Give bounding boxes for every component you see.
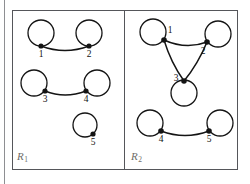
figure-container: 1 2 3 4 5 <box>0 0 250 184</box>
panel-label-r2: R2 <box>131 150 141 162</box>
vertex-dot <box>90 131 95 136</box>
node-label-r2-4: 4 <box>159 134 164 144</box>
node-label-r1-1: 1 <box>39 49 44 59</box>
node-label-r1-4: 4 <box>84 94 89 104</box>
node-label-r2-2: 2 <box>201 46 206 56</box>
node-label-r2-1: 1 <box>168 25 173 35</box>
node-label-r2-3: 3 <box>174 73 179 83</box>
panel-label-subscript-r1: 1 <box>24 155 28 164</box>
relation-graph-figure: 1 2 3 4 5 <box>0 0 250 184</box>
panel-label-letter-r1: R <box>17 150 24 162</box>
node-label-r1-3: 3 <box>43 94 48 104</box>
panel-label-r1: R1 <box>17 150 27 162</box>
node-label-r1-5: 5 <box>91 137 96 147</box>
node-label-r2-5: 5 <box>207 134 212 144</box>
node-label-r1-2: 2 <box>87 49 92 59</box>
panel-label-subscript-r2: 2 <box>138 155 142 164</box>
panel-label-letter-r2: R <box>131 150 138 162</box>
